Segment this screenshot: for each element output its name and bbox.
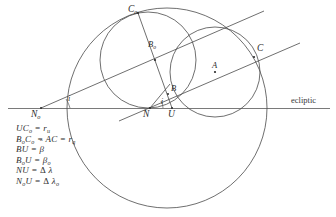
diagram-page: Co Bo C A B N U No i i ecliptic UCo = ru… <box>0 0 336 217</box>
point-dot-No <box>40 107 42 109</box>
node-line-upper <box>41 11 264 108</box>
point-dot-B <box>167 93 169 95</box>
point-dot-Bo <box>154 59 156 61</box>
angle-label-i-at-N: i <box>161 98 163 106</box>
point-label-Co: Co <box>128 5 137 15</box>
point-label-Bo: Bo <box>148 40 156 50</box>
legend-equation: NoU = Δ λo <box>16 177 166 188</box>
legend-equation: UCo = ru <box>16 124 166 135</box>
angle-label-i-at-No: i <box>68 95 70 103</box>
point-label-No: No <box>31 110 40 120</box>
point-dot-C <box>253 56 255 58</box>
ecliptic-label: ecliptic <box>291 96 316 105</box>
legend-equations: UCo = ru BoCo = AC = rq BU = β BoU = βo … <box>16 124 166 188</box>
point-label-U: U <box>168 110 175 120</box>
point-label-A: A <box>212 61 217 70</box>
point-label-B: B <box>171 84 176 93</box>
point-label-N: N <box>143 110 149 120</box>
point-dot-A <box>214 71 216 73</box>
point-label-C: C <box>257 44 263 54</box>
